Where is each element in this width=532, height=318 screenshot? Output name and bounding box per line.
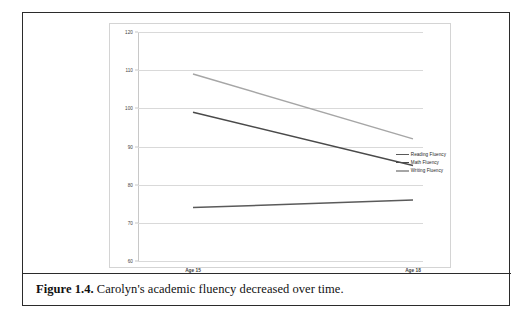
legend-label: Math Fluency [411, 160, 439, 165]
series-line [193, 112, 413, 165]
legend-item[interactable]: Writing Fluency [396, 168, 446, 173]
legend-color-swatch [396, 170, 409, 172]
figure-caption-label: Figure 1.4. [36, 282, 94, 296]
legend-color-swatch [396, 162, 409, 164]
legend-item[interactable]: Math Fluency [396, 160, 446, 165]
series-lines [138, 32, 423, 261]
y-axis-tick-label: 110 [125, 68, 133, 73]
legend-color-swatch [396, 154, 409, 156]
figure-caption: Figure 1.4. Carolyn's academic fluency d… [23, 282, 344, 297]
series-line [193, 74, 413, 139]
figure-caption-bar: Figure 1.4. Carolyn's academic fluency d… [23, 273, 511, 305]
y-axis-tick-label: 100 [125, 106, 133, 111]
y-axis-tick-label: 120 [125, 30, 133, 35]
legend-label: Writing Fluency [411, 168, 443, 173]
y-axis-tick-label: 60 [128, 259, 133, 264]
chart-block: 60708090100110120 Age 15Age 18 Reading F… [23, 13, 511, 275]
y-axis-tick-label: 90 [128, 144, 133, 149]
figure-frame: 60708090100110120 Age 15Age 18 Reading F… [22, 12, 510, 306]
chart-object[interactable]: 60708090100110120 Age 15Age 18 Reading F… [109, 23, 451, 268]
y-axis-tick-label: 70 [128, 220, 133, 225]
plot-area: 60708090100110120 Age 15Age 18 [138, 32, 423, 261]
chart-legend[interactable]: Reading FluencyMath FluencyWriting Fluen… [396, 152, 446, 173]
series-line [193, 200, 413, 208]
figure-caption-sentence: Carolyn's academic fluency decreased ove… [97, 282, 344, 296]
legend-item[interactable]: Reading Fluency [396, 152, 446, 157]
legend-label: Reading Fluency [411, 152, 446, 157]
gridline [138, 261, 423, 262]
y-axis-tick-label: 80 [128, 182, 133, 187]
